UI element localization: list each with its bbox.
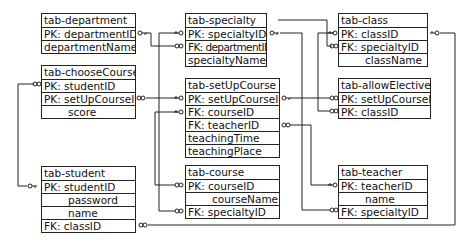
field-name: name xyxy=(339,192,427,205)
field-score: score xyxy=(42,105,135,118)
field-classID: FK: classID xyxy=(42,219,135,232)
field-specialtyID: FK: specialtyID xyxy=(339,205,427,218)
table-title: tab-allowElective xyxy=(339,79,430,92)
field-name: name xyxy=(42,206,135,219)
table-allowElective[interactable]: tab-allowElective PK: setUpCourseID PK: … xyxy=(338,78,431,119)
table-title: tab-chooseCourse xyxy=(42,66,135,79)
table-student[interactable]: tab-student PK: studentID password name … xyxy=(41,166,136,233)
field-teachingTime: teachingTime xyxy=(186,131,279,144)
table-title: tab-course xyxy=(186,166,279,179)
field-courseID: PK: courseID xyxy=(186,179,279,192)
table-chooseCourse[interactable]: tab-chooseCourse PK: studentID PK: setUp… xyxy=(41,65,136,119)
table-title: tab-setUpCourse xyxy=(186,79,279,92)
field-classID: PK: classID xyxy=(339,27,427,40)
field-specialtyID: PK: specialtyID xyxy=(186,27,266,40)
field-setUpCourseID: PK: setUpCourseID xyxy=(42,92,135,105)
field-departmentID: FK: departmentID xyxy=(186,40,266,53)
field-studentID: PK: studentID xyxy=(42,79,135,92)
field-teachingPlace: teachingPlace xyxy=(186,144,279,157)
table-class[interactable]: tab-class PK: classID FK: specialtyID cl… xyxy=(338,13,428,67)
table-teacher[interactable]: tab-teacher PK: teacherID name FK: speci… xyxy=(338,165,428,219)
table-title: tab-student xyxy=(42,167,135,180)
table-title: tab-specialty xyxy=(186,14,266,27)
table-title: tab-teacher xyxy=(339,166,427,179)
field-specialtyName: specialtyName xyxy=(186,53,266,66)
field-courseID: FK: courseID xyxy=(186,105,279,118)
field-teacherID: FK: teacherID xyxy=(186,118,279,131)
er-diagram: tab-department PK: departmentID departme… xyxy=(0,0,472,245)
field-classID: PK: classID xyxy=(339,105,430,118)
table-specialty[interactable]: tab-specialty PK: specialtyID FK: depart… xyxy=(185,13,267,67)
field-teacherID: PK: teacherID xyxy=(339,179,427,192)
field-departmentID: PK: departmentID xyxy=(42,27,135,40)
field-password: password xyxy=(42,193,135,206)
field-specialtyID: FK: specialtyID xyxy=(339,40,427,53)
table-title: tab-class xyxy=(339,14,427,27)
table-setUpCourse[interactable]: tab-setUpCourse PK: setUpCourseID FK: co… xyxy=(185,78,280,158)
table-title: tab-department xyxy=(42,14,135,27)
field-specialtyID: FK: specialtyID xyxy=(186,205,279,218)
table-department[interactable]: tab-department PK: departmentID departme… xyxy=(41,13,136,54)
field-setUpCourseID: PK: setUpCourseID xyxy=(186,92,279,105)
field-departmentName: departmentName xyxy=(42,40,135,53)
field-studentID: PK: studentID xyxy=(42,180,135,193)
field-setUpCourseID: PK: setUpCourseID xyxy=(339,92,430,105)
table-course[interactable]: tab-course PK: courseID courseName FK: s… xyxy=(185,165,280,219)
field-courseName: courseName xyxy=(186,192,279,205)
field-className: className xyxy=(339,53,427,66)
